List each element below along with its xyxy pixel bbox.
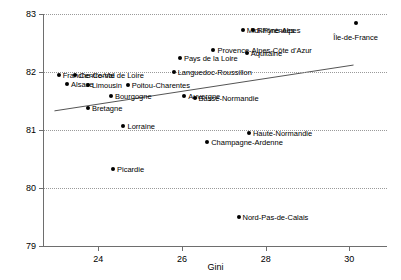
data-point[interactable] [65,82,69,86]
scatter-chart: 7980818283 24262830 Franche-ComtéCentre-… [0,0,401,280]
data-point[interactable] [241,28,245,32]
data-point[interactable] [178,56,182,60]
data-point[interactable] [354,21,358,25]
data-point[interactable] [111,167,115,171]
gridline [44,130,387,131]
data-point[interactable] [237,215,241,219]
data-point[interactable] [205,140,209,144]
data-point[interactable] [247,131,251,135]
data-point-label: Alsace [71,79,94,88]
data-point-label: Rhône-Alpes [257,26,300,35]
gridline [44,188,387,189]
data-point-label: Languedoc-Roussillon [178,68,252,77]
data-point-label: Bretagne [92,103,122,112]
data-point-label: Haute-Normandie [253,128,312,137]
y-axis-line [43,14,44,246]
y-tick-label: 80 [26,183,36,193]
data-point[interactable] [193,96,197,100]
plot-area: 7980818283 24262830 Franche-ComtéCentre-… [44,14,387,246]
x-axis-title: Gini [44,262,387,272]
data-point-label: Île-de-France [333,33,378,42]
data-point-label: Limousin [92,80,122,89]
y-tick-label: 81 [26,125,36,135]
data-point[interactable] [57,73,61,77]
data-point[interactable] [126,83,130,87]
data-point-label: Bourgogne [115,92,152,101]
data-point-label: Lorraine [127,121,155,130]
gridline [44,14,387,15]
data-point-label: Picardie [117,164,144,173]
y-tick-label: 79 [26,241,36,251]
data-point-label: Aquitaine [251,49,282,58]
x-axis-line [43,246,387,247]
data-point-label: Centre-Val de Loire [79,70,143,79]
y-tick-label: 83 [26,9,36,19]
data-point-label: Basse-Normandie [199,94,259,103]
data-point-label: Nord-Pas-de-Calais [243,213,309,222]
data-point-label: Champagne-Ardenne [211,137,283,146]
data-point[interactable] [172,70,176,74]
data-point-label: Poitou-Charentes [132,80,190,89]
data-point[interactable] [86,83,90,87]
y-tick-label: 82 [26,67,36,77]
data-point[interactable] [86,106,90,110]
